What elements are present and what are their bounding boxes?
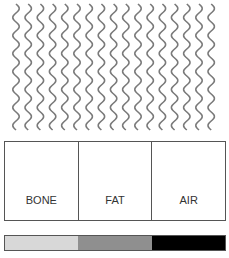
label-bone: BONE: [5, 194, 78, 206]
wave-line: [13, 4, 19, 130]
wave-line: [135, 4, 141, 130]
wave-line: [98, 4, 104, 130]
wave-line: [110, 4, 116, 130]
wave-line: [74, 4, 80, 130]
segment-bone: [5, 236, 78, 250]
wave-line: [171, 4, 177, 130]
cell-air: AIR: [152, 142, 225, 220]
wave-line: [147, 4, 153, 130]
wave-line: [86, 4, 92, 130]
wave-line: [49, 4, 55, 130]
wave-line: [37, 4, 43, 130]
label-air: AIR: [152, 194, 225, 206]
wave-line: [196, 4, 202, 130]
tissue-table: BONE FAT AIR: [4, 141, 226, 221]
cell-bone: BONE: [5, 142, 79, 220]
wave-line: [62, 4, 68, 130]
segment-fat: [78, 236, 151, 250]
wave-line: [25, 4, 31, 130]
wave-pattern: [0, 0, 229, 135]
wave-line: [123, 4, 129, 130]
wave-line: [159, 4, 165, 130]
label-fat: FAT: [79, 194, 152, 206]
segment-air: [152, 236, 225, 250]
wave-line: [184, 4, 190, 130]
cell-fat: FAT: [79, 142, 153, 220]
wave-line: [208, 4, 214, 130]
grayscale-bar: [4, 235, 226, 251]
